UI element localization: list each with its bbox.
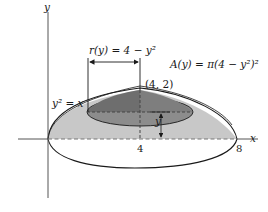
y-axis-label: y bbox=[43, 1, 51, 13]
x-axis-label: x bbox=[250, 132, 256, 144]
radius-label: r(y) = 4 − y² bbox=[89, 44, 156, 56]
curve-label: y² = x bbox=[51, 97, 84, 109]
solid-of-revolution-diagram: y x 4 8 r(y) = 4 − y² A(y) = π(4 − y²)² … bbox=[0, 0, 268, 212]
x-tick-4: 4 bbox=[137, 143, 143, 154]
point-label: (4, 2) bbox=[145, 78, 173, 90]
height-label: y bbox=[154, 115, 162, 127]
disk-cap-right bbox=[140, 90, 193, 112]
x-tick-8: 8 bbox=[236, 143, 242, 154]
area-label: A(y) = π(4 − y²)² bbox=[169, 58, 259, 70]
